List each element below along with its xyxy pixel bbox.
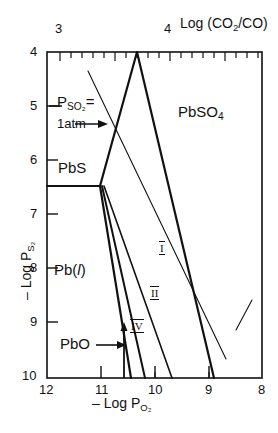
curve-label-II: II — [150, 288, 159, 299]
left-axis-title: – Log PS₂ — [18, 242, 36, 300]
boundary-pbl-right — [100, 186, 131, 378]
pso2-symbol: P — [57, 93, 67, 110]
bottom-tick-label-12: 12 — [39, 383, 53, 396]
pso2-annotation-line2: 1atm — [57, 117, 86, 130]
pbso4-sub: 4 — [218, 111, 224, 122]
left-axis-title-sub: S₂ — [25, 242, 36, 252]
left-axis-ticks — [47, 106, 58, 322]
left-tick-label-10: 10 — [22, 369, 36, 382]
bottom-tick-label-8: 8 — [258, 383, 265, 396]
left-tick-label-9: 9 — [30, 315, 37, 328]
pbl-text: Pb( — [54, 261, 77, 278]
bottom-axis-title-prefix: – Log P — [92, 395, 140, 411]
pso2-equals: = — [86, 93, 95, 110]
left-tick-label-7: 7 — [30, 207, 37, 220]
pbo-region-label: PbO — [60, 336, 90, 351]
boundary-short-upper-right — [236, 300, 252, 330]
curve-label-IV: IV — [130, 321, 144, 332]
pso2-arrowhead — [98, 120, 108, 128]
bottom-axis-title: – Log PO₂ — [92, 396, 151, 412]
top-axis-title: Log (CO2/CO) — [180, 16, 268, 32]
left-tick-label-5: 5 — [30, 99, 37, 112]
top-axis-title-tail: /CO) — [238, 15, 268, 31]
left-tick-label-4: 4 — [30, 45, 37, 58]
curve-label-IV-text: IV — [130, 319, 144, 333]
curve-label-II-text: II — [150, 286, 159, 300]
boundary-pbso4-right — [137, 52, 214, 378]
bottom-axis-title-sub: O₂ — [140, 402, 151, 413]
bottom-tick-label-10: 10 — [148, 383, 162, 396]
left-tick-label-6: 6 — [30, 153, 37, 166]
pso2-subscript: SO₂ — [67, 101, 86, 112]
top-axis-ticks — [60, 52, 258, 61]
pbl-region-label: Pb(l) — [54, 262, 86, 277]
pbl-tail: ) — [81, 261, 86, 278]
bottom-outer-stubs — [155, 372, 209, 378]
curve-label-I: I — [159, 243, 165, 254]
top-axis-title-text: Log (CO — [180, 15, 233, 31]
phase-diagram-svg — [0, 0, 278, 433]
pso2-annotation-line1: PSO₂= — [57, 94, 94, 112]
pbso4-text: PbSO — [178, 103, 218, 120]
curve-label-I-text: I — [159, 241, 165, 255]
top-tick-label-4: 4 — [164, 22, 171, 35]
boundary-pbs-pbso4 — [100, 52, 137, 186]
left-axis-title-prefix: – Log P — [18, 252, 34, 300]
pbso4-region-label: PbSO4 — [178, 104, 224, 122]
pbs-region-label: PbS — [58, 160, 86, 175]
top-tick-label-3: 3 — [55, 22, 62, 35]
phase-diagram-figure: 3 4 Log (CO2/CO) 4 5 6 7 8 9 10 – Log PS… — [0, 0, 278, 433]
bottom-tick-label-9: 9 — [205, 383, 212, 396]
